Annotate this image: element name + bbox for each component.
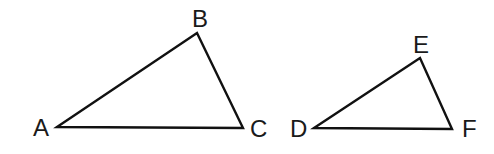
vertex-label-b: B — [192, 5, 208, 32]
vertex-label-c: C — [250, 115, 267, 142]
vertex-label-f: F — [462, 115, 477, 142]
vertex-label-a: A — [33, 114, 49, 141]
triangle-abc — [57, 33, 243, 128]
triangles-diagram: A B C D E F — [0, 0, 494, 154]
vertex-label-e: E — [413, 31, 429, 58]
triangle-def — [314, 58, 452, 129]
vertex-label-d: D — [290, 115, 307, 142]
